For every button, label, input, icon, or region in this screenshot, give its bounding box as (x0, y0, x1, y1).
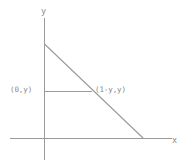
y-axis-label: y (41, 7, 46, 16)
x-axis-label: x (172, 136, 177, 145)
figure-canvas (0, 0, 189, 168)
point-label-left: (0,y) (10, 86, 32, 94)
triangle-region-figure: y x (0,y) (1-y,y) (0, 0, 189, 168)
point-label-right: (1-y,y) (95, 86, 126, 94)
